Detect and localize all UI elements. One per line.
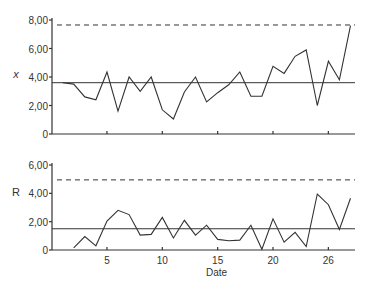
control-charts: 02,004,006,008,00x02,004,006,00510152026… — [0, 0, 373, 289]
x-chart-data-line — [63, 26, 351, 119]
r-chart-x-tick-label: 5 — [104, 255, 110, 266]
r-chart-y-tick-label: 4,00 — [29, 188, 49, 199]
r-chart-y-tick-label: 6,00 — [29, 160, 49, 171]
r-chart-x-tick-label: 20 — [267, 255, 279, 266]
chart-canvas: 02,004,006,008,00x02,004,006,00510152026… — [0, 0, 373, 289]
r-chart-y-label: R — [12, 186, 20, 198]
x-chart-y-tick-label: 2,00 — [29, 101, 49, 112]
r-chart-y-tick-label: 2,00 — [29, 217, 49, 228]
x-chart-y-tick-label: 0 — [42, 129, 48, 140]
r-chart-x-tick-label: 15 — [212, 255, 224, 266]
r-chart-y-tick-label: 0 — [42, 245, 48, 256]
r-chart-x-label: Date — [206, 267, 228, 278]
x-chart-y-tick-label: 4,00 — [29, 72, 49, 83]
x-chart-y-tick-label: 8,00 — [29, 15, 49, 26]
r-chart-x-tick-label: 26 — [323, 255, 335, 266]
r-chart-data-line — [74, 194, 351, 249]
x-chart-y-tick-label: 6,00 — [29, 44, 49, 55]
r-chart-x-tick-label: 10 — [157, 255, 169, 266]
x-chart-y-label: x — [12, 68, 19, 80]
